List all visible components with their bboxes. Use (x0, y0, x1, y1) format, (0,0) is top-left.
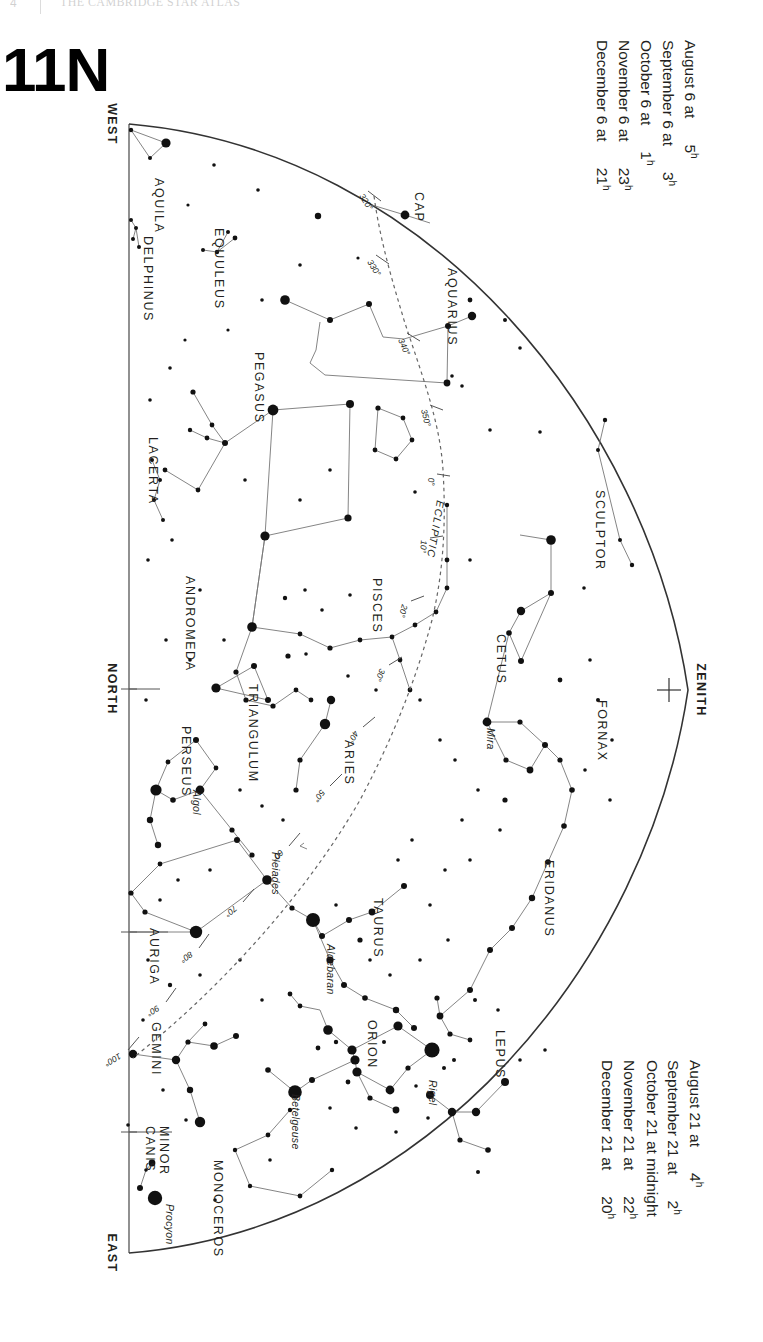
star-label-aldebaran: Aldebaran (325, 943, 337, 995)
svg-text:80°: 80° (178, 949, 195, 965)
zenith-label: ZENITH (694, 663, 708, 717)
constellation-label-taurus: TAURUS (371, 898, 385, 958)
constellation-label-minor: MINOR (157, 1126, 171, 1176)
svg-text:50°: 50° (311, 788, 327, 805)
star-mirfak (150, 784, 161, 795)
star-label-betelgeuse: Betelgeuse (290, 1094, 302, 1150)
constellation-label-cap: CAP (412, 192, 426, 223)
sky-map: ZENITH WEST NORTH EAST (0, 0, 763, 1342)
ecliptic-label: ECLIPTIC (425, 500, 447, 560)
star-label-rigel: Rigel (427, 1080, 439, 1106)
west-label: WEST (105, 103, 119, 145)
svg-text:0°: 0° (426, 477, 437, 487)
constellation-label-orion: ORION (365, 1020, 379, 1069)
constellation-labels: AQUILAEQUULEUSDELPHINUSCAPAQUARIUSPEGASU… (141, 178, 609, 1258)
stars (126, 128, 634, 1205)
constellation-label-pisces: PISCES (370, 578, 384, 633)
star-label-pleiades: Pleiades (270, 852, 282, 895)
constellation-label-sculptor: SCULPTOR (593, 490, 607, 571)
constellation-label-lacerta: LACERTA (146, 437, 160, 505)
constellation-label-pegasus: PEGASUS (252, 352, 266, 424)
star-altair (161, 138, 170, 147)
constellation-label-aquila: AQUILA (152, 178, 166, 233)
svg-text:30°: 30° (373, 667, 387, 683)
constellation-label-cetus: CETUS (494, 634, 508, 684)
constellation-label-monoceros: MONOCEROS (211, 1160, 225, 1258)
svg-text:100°: 100° (102, 1051, 123, 1069)
star-rigel (424, 1042, 439, 1057)
constellation-label-auriga: AURIGA (147, 928, 161, 986)
star-procyon (148, 1191, 162, 1205)
star-markab (268, 405, 279, 416)
svg-text:350°: 350° (419, 408, 433, 428)
constellation-label-aries: ARIES (342, 740, 356, 786)
svg-text:20°: 20° (397, 603, 410, 619)
star-castor-pollux (172, 1056, 180, 1064)
svg-text:70°: 70° (222, 903, 239, 919)
svg-text:90°: 90° (145, 1003, 162, 1019)
constellation-label-gemini: GEMINI (149, 1022, 163, 1076)
svg-text:330°: 330° (365, 258, 383, 279)
constellation-label-eridanus: ERIDANUS (542, 860, 556, 937)
constellation-lines (129, 130, 632, 1196)
constellation-label-delphinus: DELPHINUS (141, 236, 155, 322)
constellation-label-triangulum: TRIANGULUM (246, 684, 260, 783)
constellation-label-equuleus: EQUULEUS (212, 228, 226, 310)
star-capella (190, 926, 202, 938)
constellation-label-fornax: FORNAX (595, 700, 609, 762)
star-label-procyon: Procyon (164, 1204, 176, 1245)
star-hamal (320, 719, 330, 729)
constellation-label-canis: CANIS (143, 1126, 157, 1172)
north-label: NORTH (105, 663, 119, 714)
ecliptic-degree-ticks (128, 191, 450, 1050)
ecliptic-line (133, 196, 444, 1058)
east-label: EAST (105, 1234, 119, 1273)
star-label-algol: Algol (191, 789, 203, 815)
constellation-label-andromeda: ANDROMEDA (183, 576, 197, 672)
star-aldebaran (306, 913, 320, 927)
constellation-label-lepus: LEPUS (493, 1030, 507, 1079)
star-chart-page: 4 THE CAMBRIDGE STAR ATLAS 11N August 6 … (0, 0, 763, 1342)
star-label-mira: Mira (485, 728, 497, 750)
constellation-label-perseus: PERSEUS (179, 726, 193, 797)
star-mira (483, 718, 492, 727)
constellation-label-aquarius: AQUARIUS (445, 268, 459, 346)
zenith-marker (657, 678, 681, 702)
